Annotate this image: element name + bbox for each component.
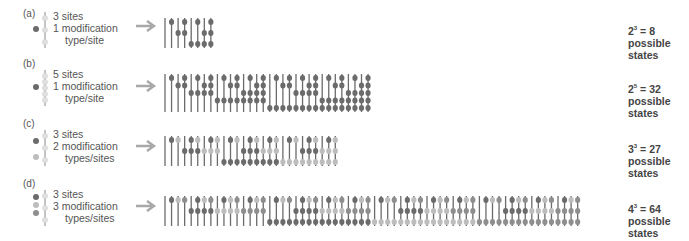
state-glyph: [169, 74, 174, 112]
panel-description: 3 sites2 modificationtypes/sites: [53, 128, 118, 164]
state-glyph: [293, 74, 298, 112]
panel-description: 5 sites1 modificationtype/site: [53, 68, 118, 104]
state-glyph: [215, 196, 220, 226]
state-glyph: [542, 196, 547, 226]
state-glyph: [189, 18, 194, 48]
panel-description: 3 sites1 modificationtype/site: [53, 10, 118, 46]
state-glyph: [523, 196, 528, 226]
state-glyph: [359, 196, 364, 226]
state-glyph: [444, 196, 449, 226]
state-glyph: [438, 196, 443, 226]
state-glyph: [195, 74, 200, 112]
state-glyph: [215, 74, 220, 112]
state-glyph: [510, 196, 515, 226]
modification-type-dot: [33, 84, 39, 90]
panel-description: 3 sites3 modificationtypes/sites: [53, 188, 118, 224]
description-line: 3 sites: [53, 188, 118, 200]
site-column-icon: [41, 190, 49, 230]
state-glyph: [208, 136, 213, 166]
state-glyph: [274, 74, 279, 112]
state-glyph: [575, 196, 580, 226]
result-formula: 33 = 27: [628, 140, 671, 155]
site-column-icon: [41, 130, 49, 170]
state-glyph: [451, 196, 456, 226]
panel-label: (c): [23, 118, 35, 129]
result-line3: states: [628, 107, 671, 119]
state-glyph: [339, 196, 344, 226]
state-glyph: [411, 196, 416, 226]
description-line: type/site: [53, 92, 118, 104]
modification-type-dot: [33, 138, 39, 144]
state-glyph: [254, 74, 259, 112]
state-glyph: [287, 74, 292, 112]
right-arrow-icon: [135, 20, 157, 32]
right-arrow-icon: [135, 80, 157, 92]
possible-states-count: 25 = 32possiblestates: [628, 80, 671, 119]
description-line: 5 sites: [53, 68, 118, 80]
state-glyph: [346, 196, 351, 226]
state-glyph: [280, 74, 285, 112]
state-glyph: [287, 136, 292, 166]
state-glyph: [555, 196, 560, 226]
site-column-icon: [41, 70, 49, 110]
state-glyph: [549, 196, 554, 226]
state-glyph: [254, 136, 259, 166]
description-line: 3 sites: [53, 10, 118, 22]
state-glyph: [182, 196, 187, 226]
description-line: 3 modification: [53, 200, 118, 212]
state-glyph: [195, 196, 200, 226]
state-glyph: [202, 196, 207, 226]
state-glyph: [274, 196, 279, 226]
state-glyph: [169, 18, 174, 48]
state-glyph: [496, 196, 501, 226]
state-glyph: [261, 136, 266, 166]
state-glyph: [431, 196, 436, 226]
description-line: types/sites: [53, 212, 118, 224]
state-glyph: [189, 196, 194, 226]
state-glyph: [195, 136, 200, 166]
state-glyph: [516, 196, 521, 226]
state-glyph: [202, 74, 207, 112]
states-strip: [163, 74, 377, 118]
state-glyph: [405, 196, 410, 226]
state-glyph: [490, 196, 495, 226]
state-glyph: [313, 196, 318, 226]
state-glyph: [248, 136, 253, 166]
state-glyph: [293, 136, 298, 166]
state-glyph: [208, 18, 213, 48]
description-line: 1 modification: [53, 80, 118, 92]
state-glyph: [234, 196, 239, 226]
panel-b: (b)5 sites1 modificationtype/site25 = 32…: [0, 58, 689, 114]
state-glyph: [274, 136, 279, 166]
state-glyph: [536, 196, 541, 226]
state-glyph: [379, 196, 384, 226]
result-equals: = 8: [637, 25, 655, 37]
state-glyph: [398, 196, 403, 226]
result-line2: possible: [628, 155, 671, 167]
state-glyph: [529, 196, 534, 226]
site-column-icon: [41, 12, 49, 52]
state-glyph: [365, 196, 370, 226]
state-glyph: [241, 74, 246, 112]
state-glyph: [464, 196, 469, 226]
state-glyph: [182, 74, 187, 112]
states-strip: [163, 196, 586, 232]
state-glyph: [202, 18, 207, 48]
panel-label: (a): [23, 8, 35, 19]
state-glyph: [215, 136, 220, 166]
state-glyph: [221, 74, 226, 112]
state-glyph: [470, 196, 475, 226]
state-glyph: [221, 196, 226, 226]
state-glyph: [569, 196, 574, 226]
state-glyph: [503, 196, 508, 226]
result-equals: = 64: [637, 203, 661, 215]
state-glyph: [176, 74, 181, 112]
modification-type-dot: [33, 154, 39, 160]
state-glyph: [339, 74, 344, 112]
result-equals: = 32: [637, 83, 661, 95]
panel-a: (a)3 sites1 modificationtype/site23 = 8p…: [0, 4, 689, 60]
state-glyph: [208, 74, 213, 112]
state-glyph: [228, 196, 233, 226]
state-glyph: [320, 136, 325, 166]
state-glyph: [300, 196, 305, 226]
